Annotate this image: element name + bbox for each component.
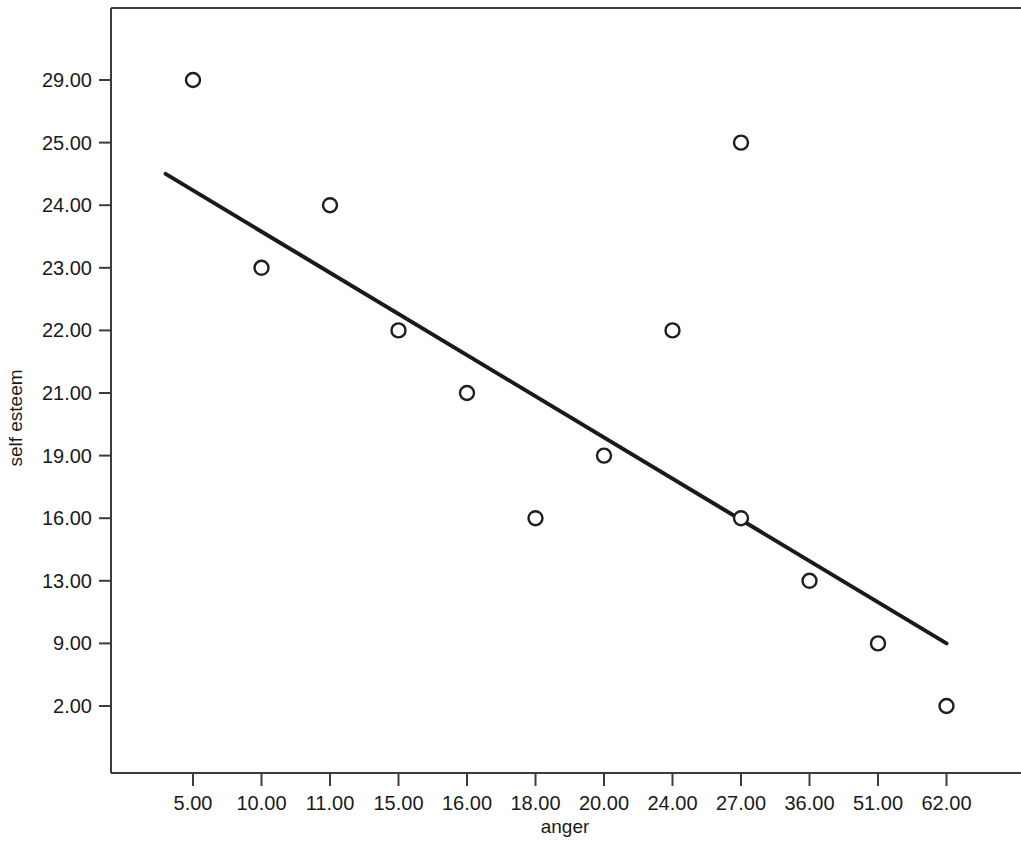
data-point bbox=[255, 261, 269, 275]
x-tick-label: 15.00 bbox=[373, 792, 423, 814]
y-tick-label: 23.00 bbox=[42, 257, 92, 279]
y-tick-label: 21.00 bbox=[42, 382, 92, 404]
y-axis-title: self esteem bbox=[5, 369, 26, 466]
y-tick-label: 13.00 bbox=[42, 570, 92, 592]
plot-canvas: 29.0025.0024.0023.0022.0021.0019.0016.00… bbox=[0, 0, 1021, 843]
x-tick-label: 11.00 bbox=[306, 792, 355, 814]
data-point bbox=[597, 449, 611, 463]
x-tick-label: 20.00 bbox=[579, 792, 629, 814]
x-tick-label: 27.00 bbox=[716, 792, 766, 814]
data-point bbox=[871, 636, 885, 650]
y-tick-label: 29.00 bbox=[42, 69, 92, 91]
y-tick-label: 25.00 bbox=[42, 132, 92, 154]
figure-background bbox=[0, 0, 1021, 843]
x-tick-label: 36.00 bbox=[784, 792, 834, 814]
x-tick-label: 18.00 bbox=[510, 792, 560, 814]
x-tick-label: 10.00 bbox=[236, 792, 286, 814]
x-tick-label: 16.00 bbox=[442, 792, 492, 814]
x-tick-label: 5.00 bbox=[174, 792, 213, 814]
data-point bbox=[940, 699, 954, 713]
y-tick-label: 22.00 bbox=[42, 319, 92, 341]
data-point bbox=[803, 574, 817, 588]
x-tick-label: 62.00 bbox=[921, 792, 971, 814]
x-axis-title: anger bbox=[541, 816, 590, 837]
data-point bbox=[734, 511, 748, 525]
data-point bbox=[186, 73, 200, 87]
y-tick-label: 9.00 bbox=[53, 632, 92, 654]
data-point bbox=[460, 386, 474, 400]
data-point bbox=[734, 136, 748, 150]
y-tick-label: 19.00 bbox=[42, 445, 92, 467]
scatter-plot-figure: 29.0025.0024.0023.0022.0021.0019.0016.00… bbox=[0, 0, 1021, 843]
data-point bbox=[529, 511, 543, 525]
x-tick-label: 24.00 bbox=[647, 792, 697, 814]
data-point bbox=[392, 323, 406, 337]
y-tick-label: 24.00 bbox=[42, 194, 92, 216]
data-point bbox=[323, 198, 337, 212]
x-tick-label: 51.00 bbox=[853, 792, 903, 814]
data-point bbox=[666, 323, 680, 337]
y-tick-label: 16.00 bbox=[42, 507, 92, 529]
y-tick-label: 2.00 bbox=[53, 695, 92, 717]
